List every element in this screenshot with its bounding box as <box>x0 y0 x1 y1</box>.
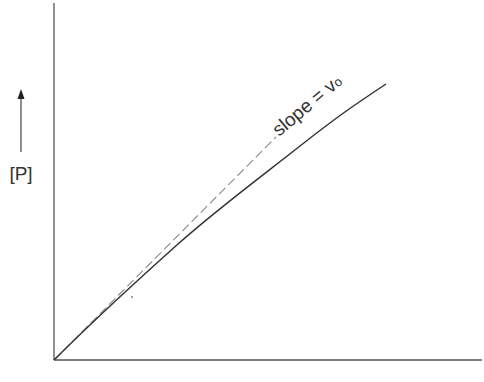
slope-annotation: slope = vo <box>268 70 346 140</box>
y-axis-label: [P] <box>9 163 32 184</box>
slope-annotation-text: slope = v <box>268 74 341 140</box>
svg-text:slope = vo: slope = vo <box>268 70 346 140</box>
product-curve <box>54 84 386 360</box>
stray-mark <box>131 296 133 298</box>
initial-velocity-diagram: [P] slope = vo <box>0 0 484 382</box>
y-axis-arrow-icon <box>18 89 25 152</box>
